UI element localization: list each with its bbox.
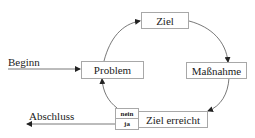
node-massnahme-label: Maßnahme bbox=[192, 65, 241, 77]
decision-yes: ja bbox=[116, 119, 138, 129]
cycle-diagram: Ziel Problem Maßnahme Ziel erreicht nein… bbox=[0, 0, 255, 138]
exit-label: Abschluss bbox=[29, 110, 74, 122]
node-massnahme: Maßnahme bbox=[186, 62, 247, 79]
edge-massnahme-ziel-erreicht bbox=[208, 78, 229, 111]
edge-ziel-massnahme bbox=[189, 21, 228, 62]
node-ziel: Ziel bbox=[141, 12, 189, 29]
decision-no: nein bbox=[116, 109, 138, 119]
entry-label: Beginn bbox=[8, 56, 40, 68]
node-ziel-label: Ziel bbox=[156, 15, 174, 27]
edge-problem-ziel bbox=[104, 21, 140, 61]
edge-nein-problem bbox=[102, 79, 117, 108]
node-ziel-erreicht-label: Ziel erreicht bbox=[146, 114, 200, 126]
decision-box: nein ja bbox=[115, 108, 139, 130]
node-problem-label: Problem bbox=[94, 64, 131, 76]
node-problem: Problem bbox=[81, 61, 144, 79]
node-ziel-erreicht: Ziel erreicht bbox=[138, 111, 208, 128]
